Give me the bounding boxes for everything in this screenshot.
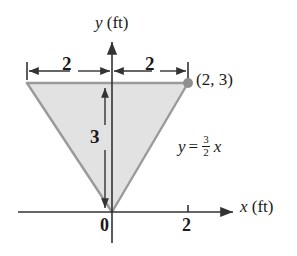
shaded-triangle-region [27, 83, 188, 212]
x-axis-tick-label-2: 2 [182, 216, 191, 234]
equation-lhs: y [178, 138, 186, 155]
geometry-figure: y (ft) x (ft) 2 2 3 0 2 (2, 3) y = 3 2 x [0, 0, 297, 256]
dimension-label-right: 2 [145, 54, 155, 73]
dimension-label-height: 3 [90, 127, 100, 146]
vertex-point-marker [183, 78, 193, 88]
equation-denominator: 2 [202, 146, 210, 159]
y-axis-label-unit: (ft) [107, 13, 129, 32]
equation-fraction: 3 2 [202, 134, 210, 158]
equation-variable: x [214, 138, 222, 155]
dimension-label-left: 2 [62, 54, 72, 73]
origin-label: 0 [100, 216, 109, 234]
x-axis-label-variable: x [240, 197, 248, 216]
equation-numerator: 3 [202, 134, 210, 146]
equation-equals: = [189, 138, 199, 155]
x-axis-label: x (ft) [240, 198, 274, 215]
x-axis-label-unit: (ft) [252, 197, 274, 216]
line-equation-label: y = 3 2 x [178, 134, 221, 158]
diagram-canvas [0, 0, 297, 256]
point-coordinate-label: (2, 3) [196, 71, 233, 88]
y-axis-label-variable: y [95, 13, 103, 32]
y-axis-label: y (ft) [95, 14, 129, 31]
